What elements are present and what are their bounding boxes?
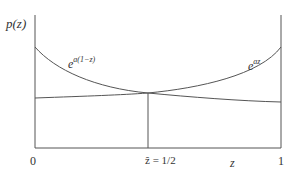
curve-increasing (35, 47, 281, 98)
curve-right-label: eaz (248, 58, 260, 72)
x-axis-label: z (230, 157, 235, 169)
midpoint-label: ẑ = 1/2 (145, 155, 176, 166)
curve-left-label: ea(1−z) (68, 56, 95, 70)
curve-left-exponent: a(1−z) (73, 55, 95, 64)
diagram-canvas (0, 0, 294, 176)
y-axis-label: p(z) (6, 17, 26, 30)
curve-right-exponent: az (253, 57, 260, 66)
x-tick-0: 0 (30, 155, 36, 167)
x-tick-1: 1 (278, 155, 284, 167)
